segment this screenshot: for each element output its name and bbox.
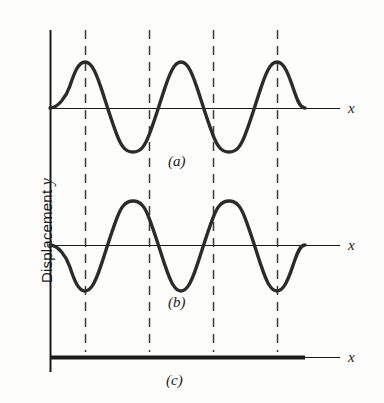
panel-c-label: (c) xyxy=(166,372,183,389)
panel-c: x (c) xyxy=(50,349,355,389)
panel-a: x (a) xyxy=(50,62,355,170)
wave-a-curve xyxy=(50,62,305,152)
figure-canvas: x (a) x (b) x (c) xyxy=(0,0,384,403)
wave-interference-figure: Displacement y x (a) x (b) xyxy=(0,0,384,403)
panel-b-label: (b) xyxy=(168,294,186,311)
panel-a-x-label: x xyxy=(347,100,355,116)
panel-a-label: (a) xyxy=(168,153,186,170)
panel-b-x-label: x xyxy=(347,237,355,253)
panel-c-x-label: x xyxy=(347,349,355,365)
panel-b: x (b) xyxy=(50,201,355,311)
